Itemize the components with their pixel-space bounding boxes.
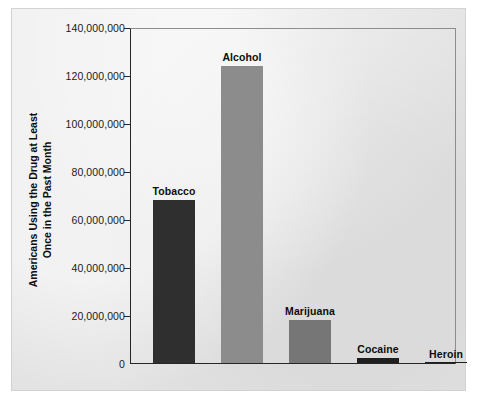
bar-group-marijuana[interactable]: Marijuana — [289, 29, 331, 363]
y-tick-label-0: 0 — [119, 358, 125, 370]
y-tick-label-40000000: 40,000,000 — [71, 262, 125, 274]
bar-cocaine[interactable]: Cocaine — [357, 358, 399, 363]
scanned-figure-panel: Americans Using the Drug at Least Once i… — [11, 8, 466, 391]
y-axis-title: Americans Using the Drug at Least Once i… — [26, 50, 54, 350]
bar-marijuana[interactable]: Marijuana — [289, 320, 331, 363]
bar-tobacco[interactable]: Tobacco — [153, 200, 195, 363]
y-tick-label-140000000: 140,000,000 — [66, 22, 126, 34]
bar-label-tobacco: Tobacco — [152, 185, 195, 197]
y-tick-label-20000000: 20,000,000 — [71, 310, 125, 322]
y-tick-label-100000000: 100,000,000 — [66, 118, 126, 130]
plot-area: Tobacco Alcohol Marijuana Cocaine — [130, 28, 456, 364]
bar-heroin[interactable]: Heroin — [425, 362, 467, 363]
bar-label-cocaine: Cocaine — [357, 343, 399, 355]
bars-group: Tobacco Alcohol Marijuana Cocaine — [131, 29, 455, 363]
bar-label-heroin: Heroin — [429, 348, 463, 360]
bar-group-heroin[interactable]: Heroin — [425, 29, 467, 363]
bar-group-alcohol[interactable]: Alcohol — [221, 29, 263, 363]
bar-label-alcohol: Alcohol — [222, 51, 261, 63]
chart-page: Americans Using the Drug at Least Once i… — [0, 0, 479, 401]
bar-group-cocaine[interactable]: Cocaine — [357, 29, 399, 363]
y-tick-label-120000000: 120,000,000 — [66, 70, 126, 82]
y-tick-label-60000000: 60,000,000 — [71, 214, 125, 226]
y-tick-label-80000000: 80,000,000 — [71, 166, 125, 178]
bar-alcohol[interactable]: Alcohol — [221, 66, 263, 363]
bar-group-tobacco[interactable]: Tobacco — [153, 29, 195, 363]
y-axis-title-line-2: Once in the Past Month — [40, 50, 54, 350]
y-axis-title-line-1: Americans Using the Drug at Least — [26, 50, 40, 350]
bar-label-marijuana: Marijuana — [285, 305, 335, 317]
